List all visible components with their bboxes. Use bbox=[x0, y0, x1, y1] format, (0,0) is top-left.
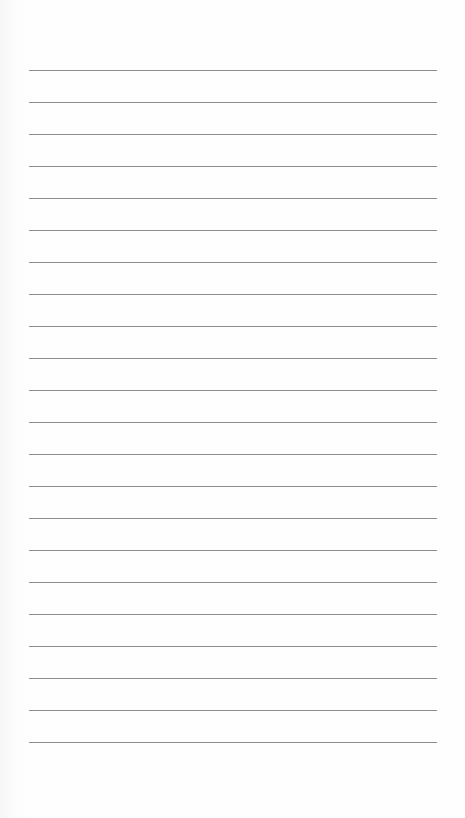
ruled-line bbox=[29, 678, 437, 679]
ruled-line bbox=[29, 582, 437, 583]
ruled-line bbox=[29, 454, 437, 455]
ruled-line bbox=[29, 422, 437, 423]
ruled-line bbox=[29, 326, 437, 327]
ruled-line bbox=[29, 710, 437, 711]
ruled-line bbox=[29, 70, 437, 71]
ruled-line bbox=[29, 742, 437, 743]
ruled-line bbox=[29, 230, 437, 231]
ruled-line bbox=[29, 134, 437, 135]
ruled-line bbox=[29, 358, 437, 359]
ruled-line bbox=[29, 294, 437, 295]
ruled-line bbox=[29, 486, 437, 487]
lined-paper-sheet bbox=[0, 0, 465, 818]
ruled-lines bbox=[29, 0, 437, 818]
ruled-line bbox=[29, 198, 437, 199]
ruled-line bbox=[29, 390, 437, 391]
ruled-line bbox=[29, 262, 437, 263]
ruled-line bbox=[29, 646, 437, 647]
ruled-line bbox=[29, 550, 437, 551]
ruled-line bbox=[29, 614, 437, 615]
ruled-line bbox=[29, 518, 437, 519]
ruled-line bbox=[29, 166, 437, 167]
ruled-line bbox=[29, 102, 437, 103]
